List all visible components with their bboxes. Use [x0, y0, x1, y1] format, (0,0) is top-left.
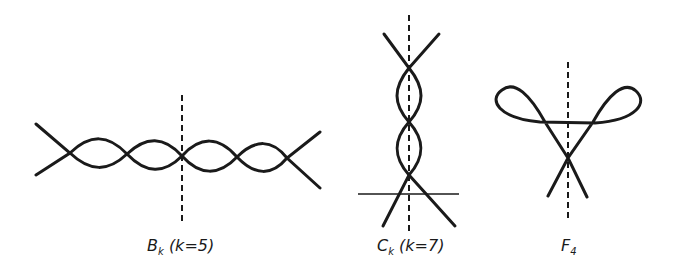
- label-c-subscript: k: [388, 246, 394, 257]
- label-c-letter: C: [377, 236, 388, 255]
- label-c-k: Ck (k=7): [377, 236, 444, 257]
- label-b-subscript: k: [158, 246, 164, 257]
- label-f-letter: F: [561, 236, 570, 255]
- label-b-letter: B: [147, 236, 158, 255]
- label-f-subscript: 4: [570, 246, 576, 257]
- label-f-4: F4: [561, 236, 577, 257]
- figure-c-k: [358, 15, 459, 232]
- label-b-param: (k=5): [169, 236, 214, 255]
- diagram-canvas: [0, 0, 679, 279]
- label-b-k: Bk (k=5): [147, 236, 214, 257]
- b-curve-1: [36, 124, 320, 188]
- figure-f-4: [496, 62, 641, 222]
- label-c-param: (k=7): [399, 236, 444, 255]
- figure-b-k: [36, 95, 320, 225]
